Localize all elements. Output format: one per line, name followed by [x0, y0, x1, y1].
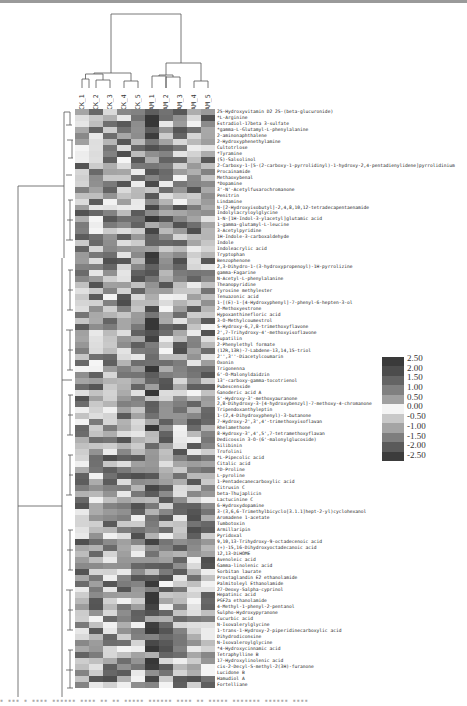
legend-swatch [382, 433, 404, 442]
legend-swatch [382, 404, 404, 413]
column-label: AM_2 [159, 88, 173, 110]
heatmap-cell [131, 682, 145, 688]
legend-swatch [382, 442, 404, 451]
color-scale-bar [382, 357, 404, 461]
legend-tick: -2.50 [407, 451, 467, 461]
heatmap-row [75, 682, 215, 688]
legend-swatch [382, 366, 404, 375]
column-label: AM_3 [173, 88, 187, 110]
heatmap-cell [159, 682, 173, 688]
heatmap-cell [89, 682, 103, 688]
heatmap-cell [201, 682, 215, 688]
column-label: AM_1 [145, 88, 159, 110]
legend-swatch [382, 357, 404, 366]
heatmap-cell [145, 682, 159, 688]
legend-swatch [382, 414, 404, 423]
column-label: CK_3 [103, 88, 117, 110]
heatmap-cell [117, 682, 131, 688]
legend-swatch [382, 452, 404, 461]
row-label: Fortelliane [217, 682, 467, 688]
row-label: 2-Carboxy-1-[5-(2-carboxy-1-pyrrolidinyl… [217, 163, 467, 169]
column-label: AM_4 [187, 88, 201, 110]
legend-swatch [382, 385, 404, 394]
color-scale-ticks: 2.50 2.00 1.50 1.00 0.50 0.00 -0.50 -1.0… [407, 354, 467, 461]
column-label: AM_5 [201, 88, 215, 110]
heatmap-grid [75, 109, 215, 688]
row-dendrogram [0, 0, 80, 706]
legend-swatch [382, 395, 404, 404]
heatmap-cell [103, 682, 117, 688]
heatmap-cell [187, 682, 201, 688]
legend-swatch [382, 376, 404, 385]
heatmap-cell [173, 682, 187, 688]
column-labels: CK_1 CK_2 CK_3 CK_4 CK_5 AM_1 AM_2 AM_3 … [75, 88, 215, 110]
column-label: CK_4 [117, 88, 131, 110]
column-label: CK_5 [131, 88, 145, 110]
legend-swatch [382, 423, 404, 432]
figure-caption: ▪ ▪▪▪ ▪ ▪▪▪▪ ▪▪▪▪▪▪ ▪▪▪▪ ▪▪ ▪▪ ▪▪▪▪▪ ▪▪▪… [0, 697, 467, 705]
heatmap-cell [75, 682, 89, 688]
column-label: CK_2 [89, 88, 103, 110]
